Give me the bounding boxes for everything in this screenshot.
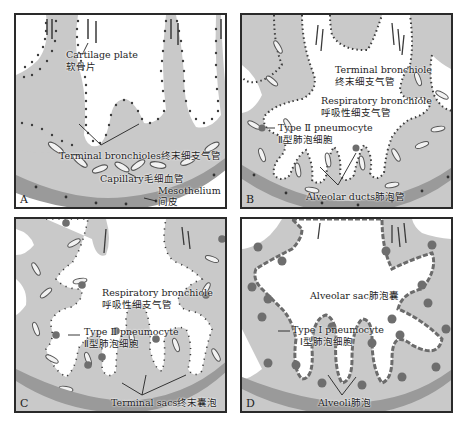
- label-terminal-bronchioles: Terminal bronchioles终末细支气管: [59, 150, 221, 161]
- label-type1-pneumocyte-en: Type Ⅰ pneumocyte: [292, 324, 384, 335]
- label-type2-pneumocyte-en: Type Ⅱ pneumocyte: [84, 326, 179, 337]
- panel-letter-a: A: [20, 193, 28, 206]
- label-alveolar-ducts: Alveolar ducts肺泡管: [306, 191, 405, 202]
- panel-letter-b: B: [246, 193, 254, 206]
- label-type1-pneumocyte-zh: Ⅰ型肺泡细胞: [300, 336, 353, 347]
- label-respiratory-bronchiole-en: Respiratory bronchiole: [102, 287, 213, 298]
- label-terminal-sacs: Terminal sacs终末囊泡: [111, 397, 217, 408]
- label-type2-pneumocyte-zh: Ⅱ型肺泡细胞: [278, 134, 333, 145]
- panel-c-illustration: [16, 219, 227, 413]
- label-terminal-bronchiole-en: Terminal bronchiole: [335, 64, 432, 75]
- label-capillary: Capillary毛细血管: [100, 173, 184, 184]
- label-mesothelium-zh: 间皮: [158, 196, 178, 207]
- panel-c-terminal-sac-stage: Respiratory bronchiole 呼吸性细支气管 Type Ⅱ pn…: [14, 217, 227, 413]
- panel-d-alveolar-stage: Alveolar sac肺泡囊 Type Ⅰ pneumocyte Ⅰ型肺泡细胞…: [240, 217, 453, 413]
- label-alveolar-sac: Alveolar sac肺泡囊: [310, 290, 399, 301]
- label-respiratory-bronchiole-zh: 呼吸性细支气管: [102, 299, 172, 310]
- label-alveoli: Alveoli肺泡: [318, 397, 371, 408]
- label-respiratory-bronchiole-en: Respiratory bronchiole: [321, 95, 432, 106]
- panel-b-pseudoglandular-stage: Terminal bronchiole 终末细支气管 Respiratory b…: [240, 13, 453, 209]
- panel-letter-c: C: [20, 397, 28, 410]
- label-terminal-bronchiole-zh: 终末细支气管: [335, 76, 395, 87]
- panel-d-illustration: [242, 219, 453, 413]
- label-type2-pneumocyte-en: Type Ⅱ pneumocyte: [278, 122, 373, 133]
- label-cartilage-plate-en: Cartilage plate: [66, 49, 138, 60]
- label-type2-pneumocyte-zh: Ⅱ型肺泡细胞: [84, 338, 139, 349]
- panel-letter-d: D: [246, 397, 255, 410]
- label-mesothelium-en: Mesothelium: [158, 185, 221, 196]
- panel-a-canalicular-stage: Cartilage plate 软骨片 Terminal bronchioles…: [14, 13, 227, 209]
- label-respiratory-bronchiole-zh: 呼吸性细支气管: [321, 107, 391, 118]
- label-cartilage-plate-zh: 软骨片: [66, 61, 96, 72]
